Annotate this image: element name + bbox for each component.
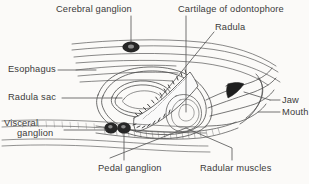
label-jaw: Jaw [282,95,299,106]
jaw-structure [226,83,244,99]
label-esophagus: Esophagus [8,64,56,75]
leader-jaw [244,92,270,100]
label-visceral-line2: ganglion [4,128,53,138]
label-visceral-ganglion: Visceral ganglion [4,118,53,138]
label-mouth: Mouth [282,107,309,118]
visceral-ganglion [104,122,117,133]
label-visceral-line1: Visceral [4,118,38,128]
label-pedal-ganglion: Pedal ganglion [98,163,162,174]
label-radula-sac: Radula sac [8,92,56,103]
label-radula: Radula [215,22,245,33]
label-cerebral-ganglion: Cerebral ganglion [56,4,132,15]
pedal-ganglion [117,122,131,134]
cerebral-ganglion [122,42,139,53]
anatomical-diagram: Cerebral ganglion Cartilage of odontopho… [0,0,309,184]
label-cartilage-of-odontophore: Cartilage of odontophore [178,4,284,15]
label-radular-muscles: Radular muscles [200,163,272,174]
radular-muscles [96,122,238,139]
radula-ribbon [133,70,198,132]
mouth-opening [206,68,276,126]
